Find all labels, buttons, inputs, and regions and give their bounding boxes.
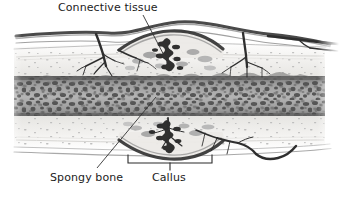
left-edge-fade: [0, 20, 22, 160]
bone-healing-figure: Connective tissue Spongy bone Callus: [0, 0, 339, 197]
spongy-bone-band: [10, 72, 330, 122]
label-connective-tissue: Connective tissue: [58, 2, 158, 14]
right-edge-fade: [317, 20, 339, 160]
label-spongy-bone: Spongy bone: [50, 172, 123, 184]
label-callus: Callus: [152, 172, 186, 184]
bone-illustration: [0, 0, 339, 197]
